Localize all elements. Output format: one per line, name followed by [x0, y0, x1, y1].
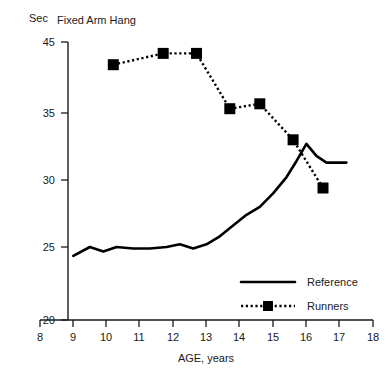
- data-point-runners: [191, 48, 202, 59]
- y-axis-ticks: 45 35 30 25 20: [43, 36, 68, 326]
- x-tick-label-15: 15: [267, 331, 279, 343]
- data-point-runners: [108, 59, 119, 70]
- data-point-runners: [158, 48, 169, 59]
- x-axis-ticks: 8 9 10 11 12 13 14 15 16 17 18: [37, 320, 379, 343]
- x-tick-label-17: 17: [333, 331, 345, 343]
- fixed-arm-hang-chart: Sec Fixed Arm Hang 45 35 30 25 20: [0, 0, 389, 375]
- x-tick-label-14: 14: [233, 331, 245, 343]
- series-reference-line: [73, 144, 346, 256]
- x-tick-label-12: 12: [167, 331, 179, 343]
- y-tick-label-20: 20: [43, 314, 55, 326]
- data-point-runners: [318, 183, 329, 194]
- data-point-runners: [288, 134, 299, 145]
- x-tick-label-10: 10: [100, 331, 112, 343]
- data-point-runners: [224, 103, 235, 114]
- x-tick-label-16: 16: [300, 331, 312, 343]
- x-tick-label-9: 9: [70, 331, 76, 343]
- legend-swatch-runners-marker: [263, 301, 273, 311]
- chart-legend: Reference Runners: [241, 276, 358, 312]
- chart-svg: Sec Fixed Arm Hang 45 35 30 25 20: [0, 0, 389, 375]
- y-tick-label-35: 35: [43, 107, 55, 119]
- y-tick-label-25: 25: [43, 241, 55, 253]
- x-tick-label-8: 8: [37, 331, 43, 343]
- y-axis-unit-label: Sec: [29, 12, 48, 24]
- legend-label-runners: Runners: [307, 300, 349, 312]
- legend-label-reference: Reference: [307, 276, 358, 288]
- x-tick-label-18: 18: [367, 331, 379, 343]
- plot-title: Fixed Arm Hang: [57, 14, 136, 26]
- x-axis-title: AGE, years: [178, 352, 235, 364]
- data-point-runners: [254, 98, 265, 109]
- x-tick-label-13: 13: [200, 331, 212, 343]
- y-tick-label-30: 30: [43, 174, 55, 186]
- x-tick-label-11: 11: [133, 331, 144, 343]
- y-tick-label-45: 45: [43, 36, 55, 48]
- series-runners-markers: [108, 48, 329, 194]
